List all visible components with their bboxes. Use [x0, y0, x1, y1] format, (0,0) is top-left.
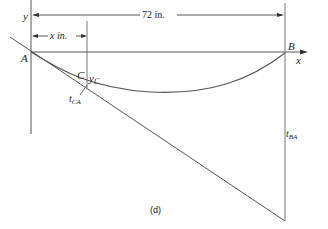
tangent-line-at-a — [10, 37, 285, 221]
x-axis-arrowhead — [300, 50, 308, 55]
span-arrowhead-left — [32, 13, 39, 17]
y-axis-label: y — [22, 10, 28, 22]
x-axis-label: x — [295, 54, 301, 66]
point-c-label: C — [77, 69, 85, 81]
t-ca-label: tCA — [69, 93, 81, 106]
x-dim-arrowhead-right — [81, 34, 87, 38]
x-dimension-label: x in. — [49, 30, 67, 41]
point-a-label: A — [20, 52, 28, 64]
span-arrowhead-right — [277, 13, 284, 17]
elastic-curve — [31, 52, 285, 92]
y-c-label: yC — [88, 72, 100, 86]
figure-caption: (d) — [150, 205, 161, 215]
t-ba-label: tBA — [286, 128, 298, 141]
x-dim-arrowhead-left — [32, 34, 38, 38]
beam-deflection-diagram: y x 72 in. x in. A B C yC tCA tBA (d) — [0, 0, 328, 229]
span-dimension-label: 72 in. — [142, 9, 165, 20]
point-b-label: B — [288, 40, 295, 52]
